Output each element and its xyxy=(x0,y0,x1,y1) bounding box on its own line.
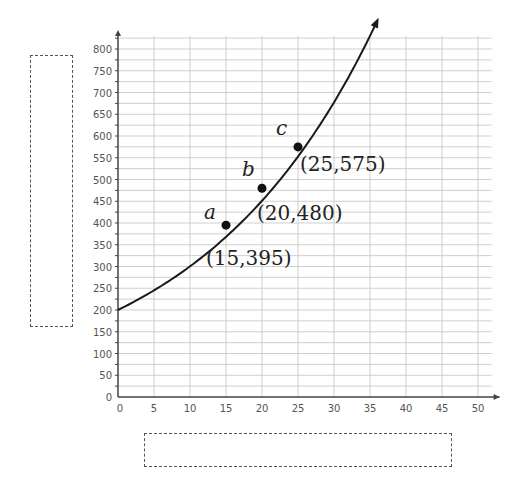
svg-text:200: 200 xyxy=(93,305,112,316)
svg-text:350: 350 xyxy=(93,240,112,251)
tick-labels: 0501001502002503003504004505005506006507… xyxy=(93,44,484,414)
point-label-b: b xyxy=(242,157,255,181)
svg-text:50: 50 xyxy=(472,403,485,414)
x-axis-label-box xyxy=(144,433,452,467)
svg-text:450: 450 xyxy=(93,196,112,207)
point-coords-c: (25,575) xyxy=(300,152,386,176)
svg-text:750: 750 xyxy=(93,66,112,77)
svg-text:250: 250 xyxy=(93,283,112,294)
svg-text:0: 0 xyxy=(117,403,123,414)
point-coords-a: (15,395) xyxy=(206,246,292,270)
svg-text:25: 25 xyxy=(292,403,305,414)
svg-text:550: 550 xyxy=(93,153,112,164)
svg-text:45: 45 xyxy=(436,403,449,414)
svg-text:30: 30 xyxy=(328,403,341,414)
point-coords-b: (20,480) xyxy=(257,201,343,225)
svg-text:800: 800 xyxy=(93,44,112,55)
svg-text:500: 500 xyxy=(93,175,112,186)
svg-text:600: 600 xyxy=(93,131,112,142)
point-b xyxy=(258,184,267,193)
svg-text:400: 400 xyxy=(93,218,112,229)
svg-text:100: 100 xyxy=(93,349,112,360)
chart: 0501001502002503003504004505005506006507… xyxy=(0,0,527,490)
point-a xyxy=(222,221,231,230)
svg-text:700: 700 xyxy=(93,88,112,99)
svg-text:40: 40 xyxy=(400,403,413,414)
svg-text:150: 150 xyxy=(93,327,112,338)
svg-text:650: 650 xyxy=(93,109,112,120)
svg-text:50: 50 xyxy=(99,370,112,381)
svg-text:15: 15 xyxy=(220,403,233,414)
svg-text:5: 5 xyxy=(151,403,157,414)
point-label-a: a xyxy=(204,200,216,224)
svg-text:20: 20 xyxy=(256,403,269,414)
svg-text:10: 10 xyxy=(184,403,197,414)
point-label-c: c xyxy=(276,116,287,140)
point-c xyxy=(294,142,303,151)
svg-text:0: 0 xyxy=(106,392,112,403)
svg-text:35: 35 xyxy=(364,403,377,414)
y-axis-label-box xyxy=(30,55,73,327)
svg-text:300: 300 xyxy=(93,262,112,273)
